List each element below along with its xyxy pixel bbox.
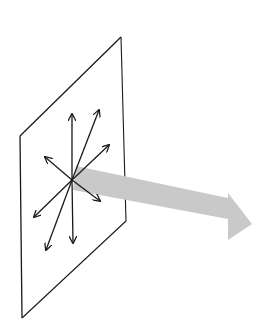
beam-arrow [73,166,252,240]
vector-upper-left [45,157,72,180]
polarization-diagram [0,0,273,334]
vector-down [72,180,73,243]
vector-lower-left [34,180,72,217]
vector-down-left [46,180,72,250]
